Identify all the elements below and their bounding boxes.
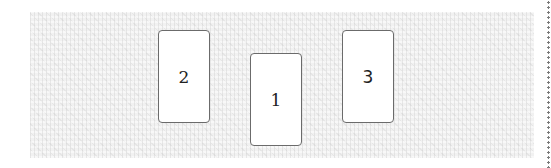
card-label: 1 (271, 90, 282, 110)
card-label: 2 (179, 67, 190, 87)
dotted-border (547, 0, 550, 168)
card-3[interactable]: 3 (342, 30, 394, 123)
card-label: 3 (363, 67, 374, 87)
card-1[interactable]: 1 (250, 53, 302, 146)
card-2[interactable]: 2 (158, 30, 210, 123)
